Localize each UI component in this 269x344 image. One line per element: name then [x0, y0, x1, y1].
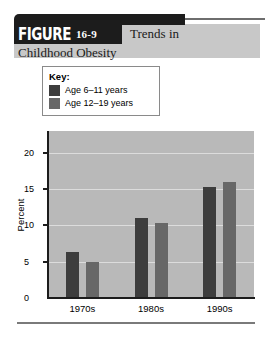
y-axis-tick-label: 0	[24, 293, 36, 303]
bar	[203, 187, 216, 298]
y-axis-title: Percent	[15, 198, 26, 231]
bar	[155, 223, 168, 298]
bottom-rule	[17, 322, 255, 324]
bar-chart: 05101520 1970s1980s1990s Percent	[48, 131, 254, 298]
y-axis-tick	[43, 188, 48, 190]
legend-swatch-age-6-11	[49, 85, 60, 96]
chart-legend: Key: Age 6–11 years Age 12–19 years	[42, 66, 160, 116]
legend-item-age-6-11: Age 6–11 years	[49, 85, 153, 96]
bar	[86, 262, 99, 298]
gridline	[48, 153, 254, 154]
y-axis-tick	[43, 261, 48, 263]
bar	[66, 252, 79, 298]
x-axis-label: 1980s	[138, 303, 164, 314]
x-axis-line	[47, 297, 255, 299]
figure-title-line-1: Trends in	[130, 26, 179, 42]
x-axis-label: 1990s	[207, 303, 233, 314]
legend-item-age-12-19: Age 12–19 years	[49, 98, 153, 109]
figure-header: FIGURE 16-9 Trends in Childhood Obesity	[0, 14, 269, 58]
y-axis-tick	[43, 152, 48, 154]
bar	[135, 218, 148, 298]
legend-title: Key:	[49, 72, 153, 82]
figure-title-line-2: Childhood Obesity	[18, 45, 117, 61]
figure-tag-number: 16-9	[76, 28, 97, 40]
x-axis-label: 1970s	[69, 303, 95, 314]
y-axis-tick-label: 5	[24, 257, 36, 267]
legend-label-age-6-11: Age 6–11 years	[65, 86, 127, 95]
legend-swatch-age-12-19	[49, 98, 60, 109]
figure-tag: FIGURE 16-9	[14, 24, 122, 44]
y-axis-line	[47, 131, 49, 298]
y-axis-tick	[43, 224, 48, 226]
header-rule	[185, 18, 265, 20]
bar	[223, 182, 236, 298]
y-axis-tick-label: 15	[24, 184, 36, 194]
figure-tag-word: FIGURE	[18, 25, 71, 42]
legend-label-age-12-19: Age 12–19 years	[65, 99, 133, 108]
y-axis-tick-label: 20	[24, 148, 36, 158]
